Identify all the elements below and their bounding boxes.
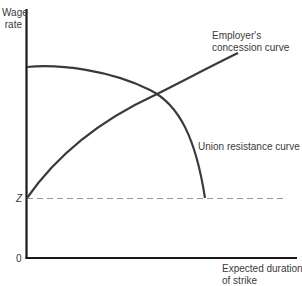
z-tick-label: Z bbox=[16, 193, 22, 205]
y-axis-label: Wage rate bbox=[2, 7, 22, 31]
y-axis-label-line1: Wage bbox=[2, 7, 22, 19]
employer-concession-curve bbox=[27, 53, 238, 198]
x-axis-label: Expected duration of strike bbox=[222, 263, 302, 286]
origin-label: 0 bbox=[16, 253, 22, 265]
x-axis-label-line1: Expected duration bbox=[222, 263, 302, 275]
union-curve-label: Union resistance curve bbox=[198, 141, 300, 153]
y-axis-label-line2: rate bbox=[2, 19, 22, 31]
employer-label-line1: Employer's bbox=[212, 30, 289, 42]
x-axis-label-line2: of strike bbox=[222, 275, 302, 286]
union-resistance-curve bbox=[27, 66, 205, 198]
employer-label-line2: concession curve bbox=[212, 42, 289, 54]
employer-curve-label: Employer's concession curve bbox=[212, 30, 289, 54]
